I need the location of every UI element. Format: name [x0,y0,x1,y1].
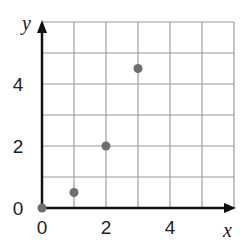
x-tick-label: 2 [101,217,112,238]
data-points [38,64,143,213]
data-point [134,64,143,73]
y-tick-label: 2 [13,136,24,157]
data-point [102,142,111,151]
x-tick-label: 0 [37,217,48,238]
y-tick-label: 0 [13,198,24,219]
y-tick-label: 4 [13,74,24,95]
data-point [70,188,79,197]
y-axis-label: y [20,12,31,35]
grid [42,22,234,208]
x-axis-label: x [222,219,232,241]
data-point [38,204,47,213]
axes [37,20,236,213]
x-tick-label: 4 [165,217,176,238]
tick-labels: 024024 [13,74,176,238]
scatter-chart: 024024 x y [0,0,246,245]
